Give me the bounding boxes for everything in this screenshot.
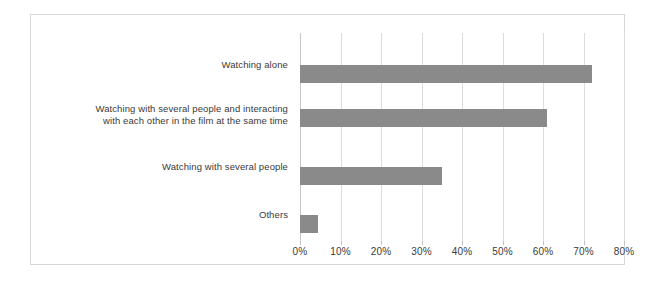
tick-mark-40%	[462, 241, 463, 245]
gridline-80%	[624, 33, 625, 241]
bar-1	[300, 109, 547, 127]
category-label-line: with each other in the film at the same …	[36, 115, 288, 127]
category-label-line: Watching alone	[36, 59, 288, 71]
tick-mark-0%	[300, 241, 301, 245]
tick-mark-50%	[503, 241, 504, 245]
category-label-line: Watching with several people and interac…	[36, 103, 288, 115]
x-tick-label: 80%	[606, 246, 642, 257]
bar-2	[300, 167, 442, 185]
category-axis-labels: Watching alone Watching with several peo…	[31, 33, 296, 241]
bar-3	[300, 215, 318, 233]
plot-area	[300, 33, 624, 241]
tick-mark-10%	[341, 241, 342, 245]
chart-frame: Watching alone Watching with several peo…	[30, 14, 625, 265]
category-label-line: Others	[36, 209, 288, 221]
x-tick-label: 30%	[404, 246, 440, 257]
category-label-others: Others	[36, 209, 288, 221]
tick-mark-70%	[584, 241, 585, 245]
category-label-watching-with-several-people: Watching with several people	[36, 161, 288, 173]
tick-mark-30%	[422, 241, 423, 245]
bar-series	[300, 33, 624, 241]
x-tick-label: 10%	[323, 246, 359, 257]
tick-mark-20%	[381, 241, 382, 245]
category-label-line: Watching with several people	[36, 161, 288, 173]
tick-mark-80%	[624, 241, 625, 245]
x-tick-label: 20%	[363, 246, 399, 257]
x-tick-label: 70%	[566, 246, 602, 257]
category-label-watching-alone: Watching alone	[36, 59, 288, 71]
bar-0	[300, 65, 592, 83]
category-label-watching-with-several-people-interacting: Watching with several people and interac…	[36, 103, 288, 127]
tick-mark-60%	[543, 241, 544, 245]
x-tick-label: 0%	[282, 246, 318, 257]
x-axis-tick-labels: 0%10%20%30%40%50%60%70%80%	[300, 246, 630, 262]
x-tick-label: 50%	[485, 246, 521, 257]
x-tick-label: 60%	[525, 246, 561, 257]
x-tick-label: 40%	[444, 246, 480, 257]
